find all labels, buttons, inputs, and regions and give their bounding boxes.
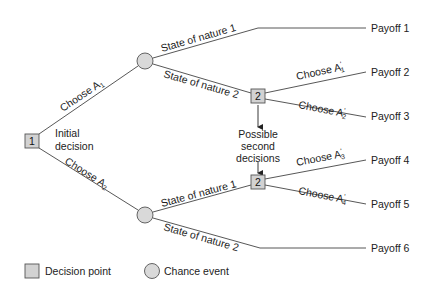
legend-decision-square-icon <box>25 264 39 278</box>
legend-decision-point-label: Decision point <box>45 265 111 277</box>
legend-chance-event-label: Chance event <box>164 265 229 277</box>
annotation-line1: Possible <box>238 128 278 140</box>
payoff-5: Payoff 5 <box>371 198 409 210</box>
label-bottom-state2: State of nature 2 <box>162 220 240 253</box>
initial-decision-caption-line2: decision <box>55 140 94 152</box>
node-decision-2-top-label: 2 <box>255 90 261 102</box>
legend: Decision point Chance event <box>25 264 229 279</box>
payoff-3: Payoff 3 <box>371 110 409 122</box>
node-decision-1-label: 1 <box>29 135 35 147</box>
label-top-state2: State of nature 2 <box>162 67 240 100</box>
label-bottom-state1: State of nature 1 <box>159 177 237 209</box>
edge-choose-a1 <box>39 66 138 134</box>
initial-decision-caption-line1: Initial <box>55 127 80 139</box>
label-choose-a1p: Choose A'1 <box>295 60 346 83</box>
payoff-4: Payoff 4 <box>371 154 409 166</box>
payoff-2: Payoff 2 <box>371 66 409 78</box>
edges <box>39 28 366 248</box>
payoff-1: Payoff 1 <box>371 22 409 34</box>
node-chance-top <box>137 53 153 69</box>
label-choose-a2p: Choose A'2 <box>297 98 347 120</box>
label-choose-a1: Choose A1 <box>57 76 105 114</box>
node-decision-1: 1 <box>25 134 39 148</box>
node-decision-2-bottom-label: 2 <box>255 176 261 188</box>
annotation-line3: decisions <box>236 152 280 164</box>
payoff-6: Payoff 6 <box>371 242 409 254</box>
label-choose-a4p: Choose A'4 <box>297 184 347 206</box>
node-decision-2-bottom: 2 <box>251 175 265 189</box>
node-chance-bottom <box>137 207 153 223</box>
annotation-line2: second <box>241 140 275 152</box>
label-choose-a2: Choose A2 <box>62 155 111 192</box>
legend-chance-circle-icon <box>145 264 160 279</box>
node-decision-2-top: 2 <box>251 89 265 103</box>
decision-tree-diagram: 1 Initial decision 2 2 Possible second d… <box>0 0 432 290</box>
